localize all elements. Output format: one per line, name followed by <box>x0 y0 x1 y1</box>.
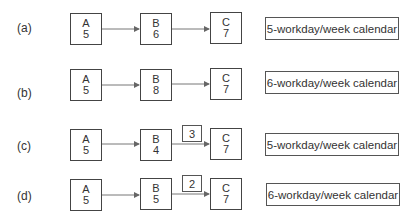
calendar-label-d: 6-workday/week calendar <box>266 183 400 206</box>
calendar-label-b: 6-workday/week calendar <box>265 71 399 94</box>
node-c: C 7 <box>210 128 242 160</box>
node-duration: 5 <box>83 85 89 96</box>
row-label-d: (d) <box>17 189 32 203</box>
row-label-c: (c) <box>17 139 31 153</box>
node-duration: 5 <box>83 29 89 40</box>
node-b: B 5 <box>140 178 172 210</box>
node-b: B 4 <box>140 129 172 161</box>
node-duration: 7 <box>223 194 229 205</box>
node-duration: 5 <box>153 194 159 205</box>
row-label-a: (a) <box>17 21 32 35</box>
node-duration: 4 <box>153 145 159 156</box>
node-duration: 7 <box>223 144 229 155</box>
node-duration: 7 <box>223 84 229 95</box>
node-c: C 7 <box>210 178 242 210</box>
node-c: C 7 <box>210 68 242 100</box>
calendar-label-a: 5-workday/week calendar <box>265 17 399 40</box>
node-a: A 5 <box>70 179 102 211</box>
node-duration: 5 <box>83 145 89 156</box>
node-a: A 5 <box>70 129 102 161</box>
calendar-label-c: 5-workday/week calendar <box>265 133 399 156</box>
node-duration: 8 <box>153 85 159 96</box>
row-label-b: (b) <box>17 86 32 100</box>
node-a: A 5 <box>70 69 102 101</box>
node-c: C 7 <box>210 12 242 44</box>
lag-box: 3 <box>182 125 202 142</box>
lag-box: 2 <box>182 175 202 192</box>
node-duration: 6 <box>153 29 159 40</box>
node-b: B 8 <box>140 69 172 101</box>
node-a: A 5 <box>70 13 102 45</box>
node-duration: 7 <box>223 28 229 39</box>
node-duration: 5 <box>83 195 89 206</box>
node-b: B 6 <box>140 13 172 45</box>
